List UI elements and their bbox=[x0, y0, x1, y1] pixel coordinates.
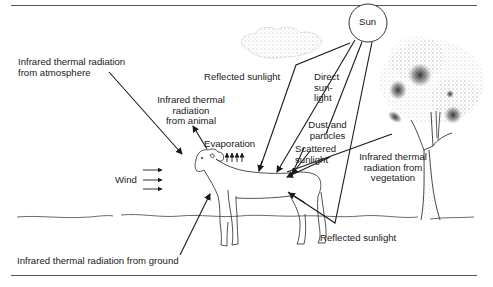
label-line: Scattered bbox=[295, 144, 336, 155]
ground-line bbox=[17, 215, 474, 219]
label-line: Direct bbox=[314, 72, 339, 83]
wind-arrows bbox=[143, 170, 162, 189]
label-line: vegetation bbox=[348, 173, 438, 184]
label-evaporation: Evaporation bbox=[204, 139, 255, 150]
label-ir-atmosphere: Infrared thermal radiation from atmosphe… bbox=[18, 57, 125, 78]
label-wind: Wind bbox=[115, 175, 137, 186]
label-sun: Sun bbox=[359, 17, 376, 28]
tree-icon bbox=[380, 36, 484, 220]
label-scattered-sunlight: Scattered sunlight bbox=[295, 144, 336, 165]
label-line: Infrared thermal radiation bbox=[18, 57, 125, 68]
label-line: light bbox=[314, 93, 339, 104]
label-line: Infrared thermal bbox=[151, 95, 231, 106]
evaporation-arrows bbox=[227, 153, 242, 162]
label-direct-sunlight: Direct sun- light bbox=[314, 72, 339, 104]
diagram-canvas: Sun Infrared thermal radiation from atmo… bbox=[0, 0, 493, 287]
label-reflected-cloud: Reflected sunlight bbox=[204, 72, 280, 83]
label-line: Dust and bbox=[300, 120, 355, 131]
label-line: particles bbox=[300, 131, 355, 142]
label-ir-vegetation: Infrared thermal radiation from vegetati… bbox=[348, 152, 438, 184]
cloud-icon bbox=[241, 27, 322, 58]
label-line: sunlight bbox=[295, 155, 336, 166]
label-line: from atmosphere bbox=[18, 68, 125, 79]
label-line: from animal bbox=[151, 116, 231, 127]
label-ir-animal: Infrared thermal radiation from animal bbox=[151, 95, 231, 127]
label-ir-ground: Infrared thermal radiation from ground bbox=[17, 256, 179, 267]
label-reflected-ground: Reflected sunlight bbox=[320, 233, 396, 244]
label-dust-particles: Dust and particles bbox=[300, 120, 355, 141]
arrow-ir-ground bbox=[180, 194, 210, 255]
label-line: Infrared thermal bbox=[348, 152, 438, 163]
